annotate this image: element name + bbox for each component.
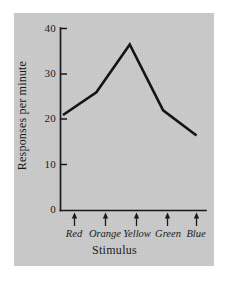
y-tick-label-30: 30 xyxy=(34,68,56,79)
y-tick-label-20: 20 xyxy=(34,113,56,124)
data-series-line xyxy=(63,44,197,135)
category-arrow-blue xyxy=(194,213,199,227)
x-axis-title: Stimulus xyxy=(0,243,229,258)
y-axis-title: Responses per minute xyxy=(15,51,30,181)
x-category-label-yellow: Yellow xyxy=(123,228,151,239)
category-arrow-red xyxy=(72,213,77,227)
y-tick-label-0: 0 xyxy=(34,204,56,215)
y-tick-label-40: 40 xyxy=(34,23,56,34)
line-chart-plot xyxy=(0,0,229,282)
x-category-label-red: Red xyxy=(66,228,82,239)
x-category-label-orange: Orange xyxy=(89,228,121,239)
x-category-label-blue: Blue xyxy=(186,228,205,239)
x-category-label-green: Green xyxy=(155,228,181,239)
y-tick-label-10: 10 xyxy=(34,159,56,170)
category-arrow-orange xyxy=(103,213,108,227)
category-arrow-yellow xyxy=(134,213,139,227)
category-arrow-green xyxy=(165,213,170,227)
